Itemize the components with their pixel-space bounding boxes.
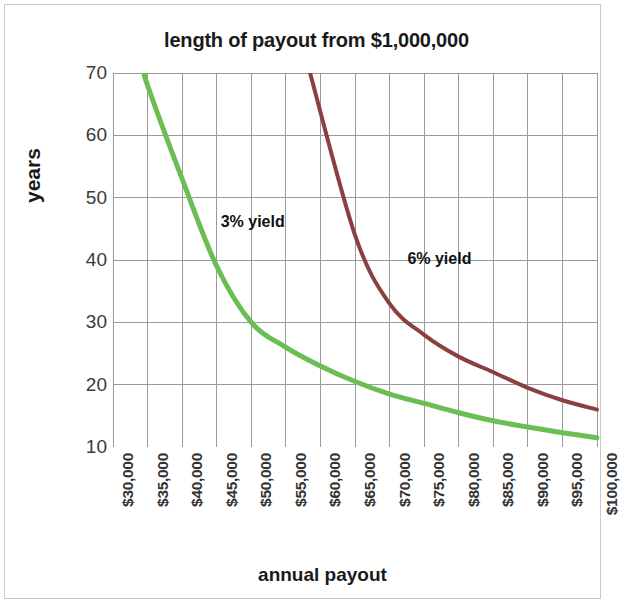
y-tick-label: 70 <box>86 62 107 84</box>
series-line <box>310 73 597 410</box>
y-tick-label: 50 <box>86 187 107 209</box>
plot-svg <box>113 73 601 447</box>
y-tick-label: 60 <box>86 124 107 146</box>
plot-area: 3% yield6% yield <box>113 73 601 447</box>
x-tick-label: $50,000 <box>257 453 275 507</box>
y-axis-tick-labels: 10203040506070 <box>45 73 107 447</box>
x-axis-tick-labels: $30,000$35,000$40,000$45,000$50,000$55,0… <box>113 451 601 551</box>
gridlines <box>113 73 597 447</box>
x-tick-label: $100,000 <box>603 453 621 515</box>
x-tick-label: $90,000 <box>534 453 552 507</box>
x-tick-label: $65,000 <box>361 453 379 507</box>
chart-title: length of payout from $1,000,000 <box>5 29 600 52</box>
x-tick-label: $75,000 <box>430 453 448 507</box>
x-tick-label: $45,000 <box>223 453 241 507</box>
series-label-6-yield: 6% yield <box>407 250 471 268</box>
x-tick-label: $55,000 <box>292 453 310 507</box>
y-axis-title: years <box>21 148 45 203</box>
x-tick-label: $70,000 <box>396 453 414 507</box>
series-line <box>144 73 597 438</box>
chart-frame: length of payout from $1,000,000 years a… <box>4 4 601 599</box>
y-tick-label: 40 <box>86 249 107 271</box>
x-tick-label: $60,000 <box>326 453 344 507</box>
data-series <box>144 73 597 438</box>
series-label-3-yield: 3% yield <box>221 213 285 231</box>
x-tick-label: $30,000 <box>119 453 137 507</box>
x-tick-label: $85,000 <box>499 453 517 507</box>
x-tick-label: $40,000 <box>188 453 206 507</box>
x-tick-label: $80,000 <box>465 453 483 507</box>
y-tick-label: 20 <box>86 374 107 396</box>
x-tick-label: $95,000 <box>568 453 586 507</box>
x-axis-title: annual payout <box>5 564 600 586</box>
y-tick-label: 10 <box>86 436 107 458</box>
y-tick-label: 30 <box>86 311 107 333</box>
x-tick-label: $35,000 <box>154 453 172 507</box>
